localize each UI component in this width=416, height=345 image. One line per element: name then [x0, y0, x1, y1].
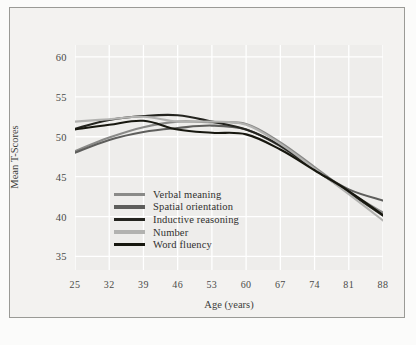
- x-tick-label: 46: [163, 279, 193, 290]
- x-tick-label: 39: [128, 279, 158, 290]
- x-tick-label: 60: [231, 279, 261, 290]
- legend-item: Spatial orientation: [114, 201, 239, 214]
- x-tick-label: 88: [368, 279, 398, 290]
- x-axis-label: Age (years): [75, 299, 383, 310]
- x-tick-label: 53: [197, 279, 227, 290]
- y-tick-label: 50: [31, 131, 67, 142]
- legend-swatch-icon: [114, 243, 145, 246]
- legend-label: Verbal meaning: [153, 189, 221, 200]
- legend-item: Inductive reasoning: [114, 213, 239, 226]
- y-tick-label: 55: [31, 91, 67, 102]
- chart-legend: Verbal meaningSpatial orientationInducti…: [114, 188, 239, 251]
- y-tick-label: 60: [31, 51, 67, 62]
- legend-swatch-icon: [114, 193, 145, 196]
- legend-label: Word fluency: [153, 239, 212, 250]
- legend-item: Number: [114, 226, 239, 239]
- legend-item: Word fluency: [114, 238, 239, 251]
- legend-label: Number: [153, 227, 188, 238]
- y-tick-label: 35: [31, 251, 67, 262]
- legend-label: Spatial orientation: [153, 201, 233, 212]
- legend-item: Verbal meaning: [114, 188, 239, 201]
- legend-swatch-icon: [114, 218, 145, 221]
- y-tick-label: 45: [31, 171, 67, 182]
- y-tick-label: 40: [31, 211, 67, 222]
- x-tick-label: 67: [265, 279, 295, 290]
- legend-label: Inductive reasoning: [153, 214, 239, 225]
- x-tick-label: 25: [60, 279, 90, 290]
- y-axis-label: Mean T-Scores: [9, 125, 20, 188]
- figure-container: Mean T-Scores Age (years) Total Sample 6…: [0, 0, 416, 345]
- x-tick-label: 81: [334, 279, 364, 290]
- x-tick-label: 32: [94, 279, 124, 290]
- legend-swatch-icon: [114, 205, 145, 208]
- x-tick-label: 74: [300, 279, 330, 290]
- legend-swatch-icon: [114, 230, 145, 233]
